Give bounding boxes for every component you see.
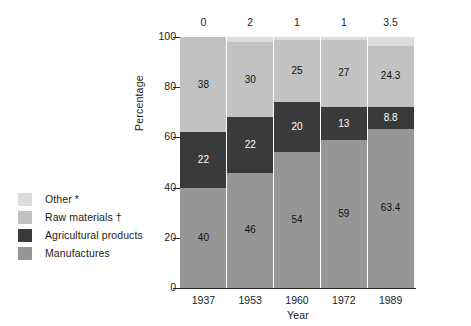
bar-segment[interactable]: 27	[321, 40, 367, 108]
bar-top-annotation: 1	[274, 16, 320, 28]
legend-swatch-icon	[18, 229, 32, 242]
bar-segment[interactable]: 24.3	[368, 46, 414, 107]
bar-segment[interactable]: 54	[274, 152, 320, 288]
bar-segment[interactable]: 13	[321, 107, 367, 140]
bar-group[interactable]: 59132711972	[321, 37, 367, 288]
legend-item-label: Raw materials †	[45, 211, 122, 223]
bar-stack: 63.48.824.3	[368, 37, 414, 288]
chart-legend: Other *Raw materials †Agricultural produ…	[18, 190, 148, 262]
bar-segment[interactable]: 8.8	[368, 107, 414, 129]
bar-segment[interactable]: 38	[180, 37, 226, 132]
legend-swatch-icon	[18, 247, 32, 260]
bar-group[interactable]: 40223801937	[180, 37, 226, 288]
bar-segment[interactable]: 20	[274, 102, 320, 152]
y-tick-label: 20	[164, 231, 176, 243]
plot-area: 0204060801004022380193746223021953542025…	[180, 37, 414, 288]
y-tick-label: 100	[158, 30, 176, 42]
bar-top-annotation: 1	[321, 16, 367, 28]
legend-item[interactable]: Raw materials †	[18, 208, 148, 226]
bar-segment[interactable]: 25	[274, 40, 320, 103]
bar-group[interactable]: 46223021953	[227, 37, 273, 288]
bar-segment[interactable]	[227, 37, 273, 42]
bar-top-annotation: 0	[180, 16, 226, 28]
x-tick-label: 1972	[321, 294, 367, 306]
bar-top-annotation: 2	[227, 16, 273, 28]
legend-item-label: Manufactures	[45, 247, 110, 259]
bar-value-label: 22	[198, 155, 209, 165]
bar-stack: 542025	[274, 37, 320, 288]
y-tick-label: 0	[170, 281, 176, 293]
bar-stack: 402238	[180, 37, 226, 288]
bar-value-label: 27	[338, 68, 349, 78]
legend-swatch-icon	[18, 211, 32, 224]
bar-value-label: 30	[245, 75, 256, 85]
bar-value-label: 54	[291, 215, 302, 225]
bar-segment[interactable]: 22	[180, 132, 226, 187]
bar-segment[interactable]: 59	[321, 140, 367, 288]
bar-segment[interactable]: 46	[227, 173, 273, 288]
bar-value-label: 20	[291, 122, 302, 132]
legend-item[interactable]: Manufactures	[18, 244, 148, 262]
legend-item-label: Agricultural products	[45, 229, 143, 241]
bar-value-label: 25	[291, 66, 302, 76]
bar-stack: 462230	[227, 37, 273, 288]
y-tick-label: 80	[164, 80, 176, 92]
bar-value-label: 40	[198, 233, 209, 243]
bar-segment[interactable]: 22	[227, 117, 273, 172]
bar-value-label: 46	[245, 225, 256, 235]
bar-top-annotation: 3.5	[368, 16, 414, 28]
bar-segment[interactable]	[321, 37, 367, 40]
bar-value-label: 63.4	[381, 203, 400, 213]
legend-swatch-icon	[18, 193, 32, 206]
bar-stack: 591327	[321, 37, 367, 288]
bar-segment[interactable]: 30	[227, 42, 273, 117]
x-tick-label: 1960	[274, 294, 320, 306]
y-tick-label: 40	[164, 181, 176, 193]
legend-item-label: Other *	[45, 193, 79, 205]
x-axis-title: Year	[287, 309, 309, 321]
legend-item[interactable]: Other *	[18, 190, 148, 208]
bar-value-label: 22	[245, 140, 256, 150]
legend-item[interactable]: Agricultural products	[18, 226, 148, 244]
x-tick-label: 1937	[180, 294, 226, 306]
x-tick-label: 1989	[368, 294, 414, 306]
bar-value-label: 59	[338, 209, 349, 219]
y-tick-label: 60	[164, 130, 176, 142]
bar-group[interactable]: 63.48.824.33.51989	[368, 37, 414, 288]
bar-segment[interactable]: 40	[180, 188, 226, 288]
bar-value-label: 38	[198, 80, 209, 90]
bar-value-label: 24.3	[381, 71, 400, 81]
bar-value-label: 8.8	[384, 113, 398, 123]
bar-segment[interactable]	[274, 37, 320, 40]
bar-value-label: 13	[338, 119, 349, 129]
x-axis-line	[180, 288, 416, 289]
bar-segment[interactable]	[368, 37, 414, 46]
x-tick-label: 1953	[227, 294, 273, 306]
bar-group[interactable]: 54202511960	[274, 37, 320, 288]
bar-segment[interactable]: 63.4	[368, 129, 414, 288]
y-axis-title: Percentage	[133, 75, 145, 131]
